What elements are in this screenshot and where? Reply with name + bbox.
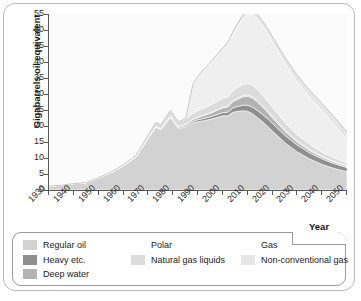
legend-item: Natural gas liquids bbox=[131, 253, 241, 268]
legend-column-3: GasNon-conventional gas bbox=[241, 238, 347, 267]
plot-wrapper: 0510152025303540455055 19301940195019601… bbox=[48, 14, 346, 190]
y-tick-label: 45 bbox=[18, 41, 44, 50]
x-tick-mark bbox=[346, 191, 347, 195]
y-tick-mark bbox=[44, 142, 48, 143]
x-tick-mark bbox=[247, 191, 248, 195]
x-tick-mark bbox=[172, 191, 173, 195]
y-tick-label: 10 bbox=[18, 153, 44, 162]
x-tick-mark bbox=[123, 191, 124, 195]
legend-swatch bbox=[23, 240, 37, 250]
legend-swatch bbox=[131, 255, 145, 265]
legend-item: Polar bbox=[131, 238, 241, 253]
chart-figure: Gigabarrels oil equivalent 0510152025303… bbox=[0, 0, 361, 301]
legend: Regular oilHeavy etc.Deep water PolarNat… bbox=[12, 232, 346, 286]
legend-item: Heavy etc. bbox=[23, 253, 133, 268]
legend-item: Gas bbox=[241, 238, 347, 253]
x-axis-label: Year bbox=[309, 221, 329, 232]
y-tick-mark bbox=[44, 158, 48, 159]
x-tick-mark bbox=[222, 191, 223, 195]
legend-item: Regular oil bbox=[23, 238, 133, 253]
y-tick-label: 50 bbox=[18, 25, 44, 34]
y-tick-mark bbox=[44, 94, 48, 95]
legend-column-1: Regular oilHeavy etc.Deep water bbox=[23, 238, 133, 282]
legend-item: Deep water bbox=[23, 267, 133, 282]
y-tick-label: 25 bbox=[18, 105, 44, 114]
legend-label: Polar bbox=[151, 238, 172, 253]
legend-label: Heavy etc. bbox=[43, 253, 86, 268]
y-tick-mark bbox=[44, 46, 48, 47]
x-tick-mark bbox=[197, 191, 198, 195]
y-tick-label: 5 bbox=[18, 169, 44, 178]
legend-label: Regular oil bbox=[43, 238, 86, 253]
y-tick-mark bbox=[44, 78, 48, 79]
chart-area: Gigabarrels oil equivalent 0510152025303… bbox=[8, 8, 353, 220]
plot-canvas bbox=[48, 14, 347, 191]
x-tick-mark bbox=[48, 191, 49, 195]
x-tick-mark bbox=[272, 191, 273, 195]
y-tick-label: 30 bbox=[18, 89, 44, 98]
x-tick-mark bbox=[147, 191, 148, 195]
y-tick-mark bbox=[44, 14, 48, 15]
stacked-area-svg bbox=[49, 14, 347, 190]
y-tick-label: 40 bbox=[18, 57, 44, 66]
y-tick-mark bbox=[44, 174, 48, 175]
y-tick-label: 55 bbox=[18, 9, 44, 18]
legend-item: Non-conventional gas bbox=[241, 253, 347, 268]
y-tick-label: 20 bbox=[18, 121, 44, 130]
y-tick-label: 35 bbox=[18, 73, 44, 82]
y-tick-mark bbox=[44, 62, 48, 63]
y-tick-mark bbox=[44, 110, 48, 111]
x-tick-mark bbox=[321, 191, 322, 195]
legend-column-2: PolarNatural gas liquids bbox=[131, 238, 241, 267]
y-tick-label: 15 bbox=[18, 137, 44, 146]
legend-label: Deep water bbox=[43, 267, 89, 282]
legend-label: Non-conventional gas bbox=[261, 253, 348, 268]
legend-label: Gas bbox=[261, 238, 278, 253]
y-tick-mark bbox=[44, 126, 48, 127]
legend-label: Natural gas liquids bbox=[151, 253, 225, 268]
legend-swatch bbox=[23, 269, 37, 279]
legend-swatch bbox=[23, 255, 37, 265]
x-tick-mark bbox=[296, 191, 297, 195]
legend-swatch bbox=[241, 255, 255, 265]
x-tick-mark bbox=[98, 191, 99, 195]
y-tick-mark bbox=[44, 30, 48, 31]
x-tick-mark bbox=[73, 191, 74, 195]
